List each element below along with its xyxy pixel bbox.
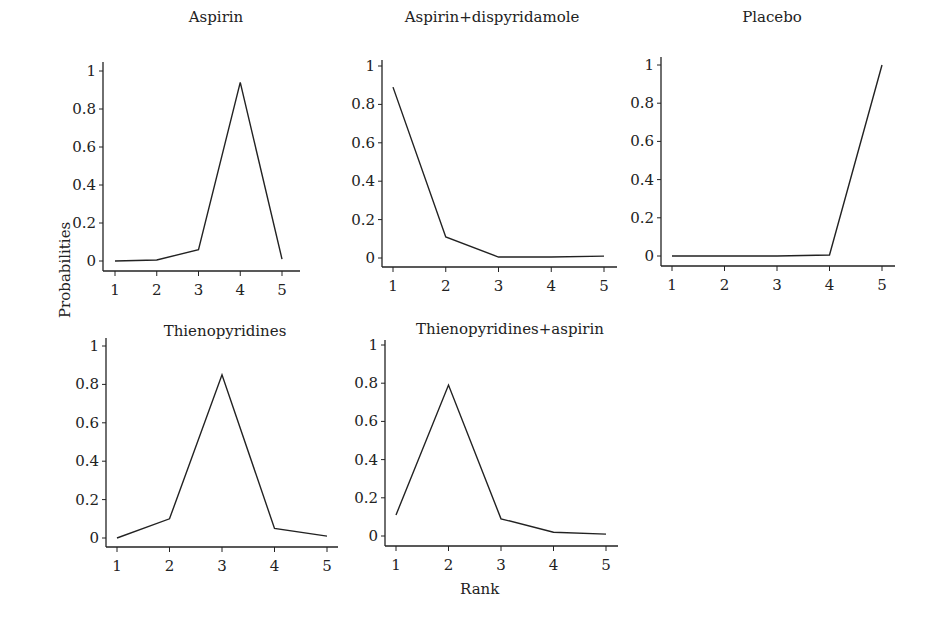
panel-title: Thienopyridines+aspirin <box>416 320 604 338</box>
x-tick-label: 1 <box>391 556 401 574</box>
y-tick-label: 0.6 <box>354 412 378 430</box>
series-line <box>396 385 606 534</box>
x-tick-label: 2 <box>444 556 454 574</box>
x-tick-label: 3 <box>496 556 506 574</box>
y-tick-label: 1 <box>368 336 378 354</box>
x-tick-label: 4 <box>549 556 559 574</box>
panel-title: Thienopyridines <box>164 322 287 340</box>
panel-title: Aspirin+dispyridamole <box>405 8 580 26</box>
y-tick-label: 0.2 <box>354 489 378 507</box>
x-tick-label: 5 <box>601 556 611 574</box>
y-tick-label: 0 <box>368 527 378 545</box>
y-tick-label: 0.8 <box>354 374 378 392</box>
panel-title: Placebo <box>742 8 802 26</box>
panel-title: Aspirin <box>189 8 244 26</box>
y-tick-label: 0.4 <box>354 451 378 469</box>
panel-plot: 00.20.40.60.8112345 <box>0 0 935 624</box>
